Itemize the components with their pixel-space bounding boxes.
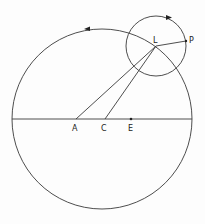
label-A: A [72,124,78,133]
label-L: L [153,36,158,45]
diagram-canvas: A C E L P [0,0,205,224]
geometry-diagram: A C E L P [0,0,205,224]
label-P: P [189,36,194,45]
point-E-dot [130,118,133,121]
segment-A-L [76,46,156,119]
segment-C-L [105,46,156,119]
label-C: C [101,124,107,133]
point-P-dot [185,40,187,42]
label-E: E [128,124,133,133]
segment-L-P [156,41,186,46]
